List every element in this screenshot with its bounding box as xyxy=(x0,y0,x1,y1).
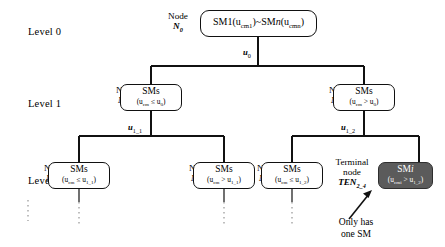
ten-2-4-title-sm: SM xyxy=(397,164,411,174)
node-box-ten-2-4[interactable]: SMi (ucmi > u1_2) xyxy=(378,162,433,189)
annotation-line1: Only has xyxy=(316,216,396,228)
root-expr-d: ) xyxy=(301,16,304,27)
diagram-canvas: Level 0 Level 1 Level 2 Node N0 SM1(ucm1… xyxy=(0,0,445,247)
edge-label-u1-2-index: 1_2 xyxy=(346,127,355,134)
edge-label-u1-1: u1_1 xyxy=(128,122,142,134)
node-box-n-1-1[interactable]: SMs (ucm ≤ u0) xyxy=(120,84,182,111)
node-box-n-2-1[interactable]: SMs (ucm ≤ u1_1) xyxy=(48,162,110,189)
node-box-n-1-1-title: SMs xyxy=(142,87,159,97)
node-box-n-2-2[interactable]: SMs (ucm > u1_1) xyxy=(193,162,255,189)
edge-label-u1-2: u1_2 xyxy=(341,122,355,134)
ten-2-4-cond-close: ) xyxy=(421,175,423,184)
n-2-3-cond-close: ) xyxy=(306,175,308,184)
node-box-n-1-2-condition: (ucm > u0) xyxy=(350,98,379,108)
n-1-2-cond-op: > u xyxy=(362,97,374,106)
annotation-only-one-sm: Only has one SM xyxy=(316,216,396,240)
node-box-n-2-3[interactable]: SMs (ucm ≤ u1_2) xyxy=(261,162,323,189)
n-1-1-cond-op: ≤ u xyxy=(149,97,160,106)
node-box-n-2-1-title: SMs xyxy=(70,165,87,175)
n-2-2-cond-close: ) xyxy=(238,175,240,184)
root-expr-b: )~SM xyxy=(252,16,275,27)
node-box-ten-2-4-condition: (ucmi > u1_2) xyxy=(388,176,423,186)
node-box-ten-2-4-title: SMi xyxy=(397,165,413,175)
node-box-root-label: SM1(ucm1)~SMn(ucmn) xyxy=(213,17,304,29)
node-caption-ten-2-4: Terminal node TEN2_4 xyxy=(327,158,377,189)
node-box-root[interactable]: SM1(ucm1)~SMn(ucmn) xyxy=(200,10,317,37)
node-box-n-1-2[interactable]: SMs (ucm > u0) xyxy=(333,84,395,111)
annotation-line2: one SM xyxy=(316,228,396,240)
n-2-1-cond-op: ≤ u xyxy=(74,175,85,184)
annotation-arrow xyxy=(349,190,372,219)
node-box-n-1-1-condition: (ucm ≤ u0) xyxy=(137,98,166,108)
n-2-3-cond-op: ≤ u xyxy=(287,175,298,184)
node-caption-root-line2: N0 xyxy=(160,22,196,34)
node-box-n-2-2-title: SMs xyxy=(215,165,232,175)
ten-2-4-cond-sub: cmi xyxy=(394,181,402,186)
node-box-n-2-2-condition: (ucm > u1_1) xyxy=(207,176,241,186)
ten-2-4-title-i: i xyxy=(411,164,414,174)
ten-2-4-cond-op: > u xyxy=(402,175,414,184)
edge-label-u0-index: 0 xyxy=(248,52,251,59)
n-2-1-cond-close: ) xyxy=(93,175,95,184)
connector-lines xyxy=(0,0,445,247)
node-box-n-2-1-condition: (ucm ≤ u1_1) xyxy=(62,176,96,186)
node-caption-root: Node N0 xyxy=(160,12,196,34)
node-caption-ten-2-4-line2: TEN2_4 xyxy=(327,178,377,190)
node-caption-root-name: N xyxy=(173,21,180,31)
node-box-n-2-3-title: SMs xyxy=(283,165,300,175)
root-expr-c: (u xyxy=(281,16,289,27)
n-1-2-cond-close: ) xyxy=(376,97,378,106)
node-caption-ten-2-4-index: 2_4 xyxy=(357,182,366,189)
edge-label-u0: u0 xyxy=(243,47,251,59)
root-expr-sub1: cm1 xyxy=(241,22,253,29)
node-caption-ten-2-4-name: TEN xyxy=(338,177,356,187)
root-expr-a: SM1(u xyxy=(213,16,241,27)
node-box-n-1-2-title: SMs xyxy=(355,87,372,97)
level-label-1: Level 1 xyxy=(28,98,61,109)
ten-2-4-cond-sub2: 1_2 xyxy=(413,181,421,186)
node-caption-root-index: 0 xyxy=(180,26,183,33)
n-2-2-cond-op: > u xyxy=(219,175,231,184)
edge-label-u1-1-index: 1_1 xyxy=(133,127,142,134)
n-1-1-cond-close: ) xyxy=(163,97,165,106)
root-expr-sub2: cmn xyxy=(289,22,301,29)
level-label-0: Level 0 xyxy=(28,26,61,37)
node-box-n-2-3-condition: (ucm ≤ u1_2) xyxy=(275,176,309,186)
